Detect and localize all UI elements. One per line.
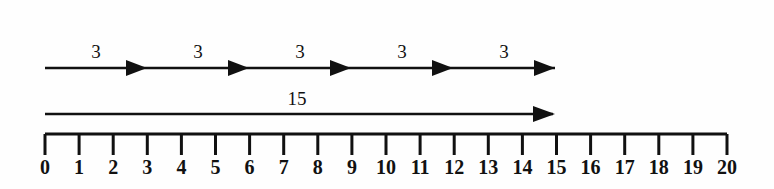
total-label: 15 xyxy=(277,89,317,108)
jump-arrowhead-3 xyxy=(330,60,351,76)
jump-arrowhead-1 xyxy=(126,60,147,76)
hop-label-2: 3 xyxy=(178,42,218,61)
total-arrowhead xyxy=(533,106,555,122)
hop-label-5: 3 xyxy=(484,42,524,61)
jump-arrowhead-5 xyxy=(534,60,555,76)
hop-label-3: 3 xyxy=(280,42,320,61)
number-line-axis xyxy=(45,134,727,155)
jump-arrowhead-4 xyxy=(432,60,453,76)
jump-arrowhead-2 xyxy=(228,60,249,76)
hop-label-1: 3 xyxy=(76,42,116,61)
number-line-figure: 3 3 3 3 3 15 0 1 2 3 4 5 6 7 8 9 10 11 1… xyxy=(0,0,774,189)
repeated-jumps-group xyxy=(45,60,555,76)
hop-label-4: 3 xyxy=(382,42,422,61)
tick-label-20: 20 xyxy=(707,157,747,177)
